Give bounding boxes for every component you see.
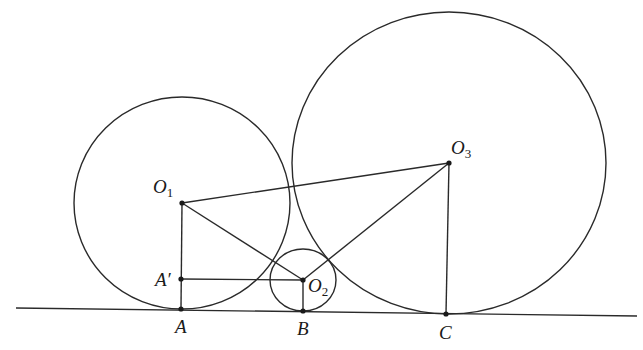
segment-o1-o3 <box>182 163 449 203</box>
label-a-prime: A′ <box>153 269 172 290</box>
point-b <box>300 308 305 313</box>
point-o1 <box>179 200 184 205</box>
label-o2: O2 <box>308 275 328 299</box>
label-c: C <box>439 322 452 343</box>
segment-o3-c <box>446 163 449 314</box>
label-o3: O3 <box>451 137 471 161</box>
segment-o3-o2 <box>303 163 449 280</box>
segment-o1-o2 <box>182 203 303 280</box>
geometry-diagram: O1 O2 O3 A′ A B C <box>0 0 643 350</box>
point-o2 <box>300 277 305 282</box>
segment-o1-a <box>181 203 182 309</box>
label-o1: O1 <box>153 176 173 200</box>
point-a <box>178 306 183 311</box>
label-a: A <box>173 316 187 337</box>
ground-tangent-line <box>16 308 637 316</box>
point-c <box>443 311 448 316</box>
point-a-prime <box>178 276 183 281</box>
label-b: B <box>297 318 309 339</box>
point-o3 <box>446 160 451 165</box>
segment-aprime-o2 <box>181 279 303 280</box>
